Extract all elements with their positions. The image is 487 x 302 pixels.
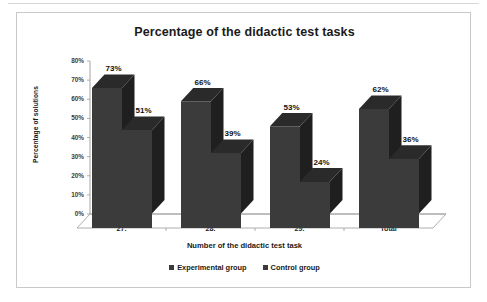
- bar-control-group[interactable]: [300, 182, 330, 228]
- bar-experimental-group[interactable]: [92, 88, 122, 228]
- bar-value-label: 39%: [224, 129, 242, 138]
- bar-control-group[interactable]: [389, 159, 419, 228]
- bar-value-label: 24%: [313, 158, 331, 167]
- bar-experimental-group[interactable]: [181, 102, 211, 228]
- bar-value-label: 36%: [402, 135, 420, 144]
- bar-value-label: 62%: [372, 85, 390, 94]
- page-scan-artifact: [8, 3, 479, 4]
- bar-value-label: 53%: [283, 103, 301, 112]
- bar-experimental-group[interactable]: [359, 109, 389, 228]
- chart-container: Percentage of the didactic test tasks Pe…: [16, 12, 471, 288]
- bar-experimental-group[interactable]: [270, 127, 300, 228]
- bar-value-label: 66%: [194, 78, 212, 87]
- bar-3d-side-face: [152, 116, 165, 214]
- bar-value-label: 73%: [105, 64, 123, 73]
- plot-area: 0%10%20%30%40%50%60%70%80%51%73%27.39%66…: [17, 13, 472, 289]
- bar-value-label: 51%: [135, 106, 153, 115]
- bar-control-group[interactable]: [211, 153, 241, 228]
- bar-control-group[interactable]: [122, 130, 152, 228]
